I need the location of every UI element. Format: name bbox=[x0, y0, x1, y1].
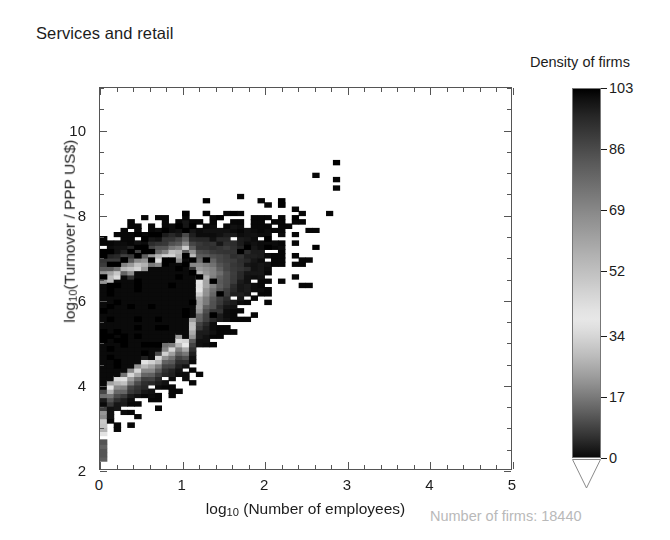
x-axis-minor-tick bbox=[331, 88, 332, 92]
x-axis-minor-tick bbox=[381, 88, 382, 92]
y-axis-minor-tick bbox=[507, 428, 511, 429]
x-axis-minor-tick bbox=[199, 88, 200, 92]
y-axis-tick bbox=[504, 301, 511, 302]
y-axis-title: log10(Turnover / PPP US$) bbox=[61, 31, 79, 431]
x-axis-minor-tick bbox=[133, 88, 134, 92]
y-tick-label: 2 bbox=[78, 462, 86, 479]
x-axis-minor-tick bbox=[133, 465, 134, 469]
x-axis-minor-tick bbox=[397, 465, 398, 469]
y-axis-tick bbox=[504, 216, 511, 217]
colorbar-tick-label: 34 bbox=[609, 328, 625, 344]
y-axis-minor-tick bbox=[100, 258, 104, 259]
x-axis-minor-tick bbox=[216, 465, 217, 469]
x-axis-title-subscript: 10 bbox=[227, 506, 239, 518]
x-axis-tick bbox=[513, 462, 514, 469]
x-axis-minor-tick bbox=[199, 465, 200, 469]
y-axis-minor-tick bbox=[507, 407, 511, 408]
x-axis-minor-tick bbox=[117, 88, 118, 92]
y-axis-minor-tick bbox=[507, 258, 511, 259]
x-tick-label: 1 bbox=[177, 476, 185, 493]
x-axis-minor-tick bbox=[117, 465, 118, 469]
x-axis-minor-tick bbox=[150, 465, 151, 469]
x-axis-minor-tick bbox=[463, 88, 464, 92]
y-axis-minor-tick bbox=[100, 152, 104, 153]
y-axis-minor-tick bbox=[100, 280, 104, 281]
x-axis-title-suffix: (Number of employees) bbox=[239, 500, 405, 517]
y-axis-minor-tick bbox=[507, 365, 511, 366]
x-axis-minor-tick bbox=[364, 88, 365, 92]
x-axis-minor-tick bbox=[166, 88, 167, 92]
y-axis-title-subscript: 10 bbox=[67, 290, 79, 302]
y-axis-tick bbox=[100, 216, 107, 217]
x-tick-label: 5 bbox=[508, 476, 516, 493]
x-axis-minor-tick bbox=[150, 88, 151, 92]
x-axis-tick bbox=[513, 88, 514, 95]
x-axis-minor-tick bbox=[298, 465, 299, 469]
colorbar-tick bbox=[601, 336, 607, 337]
x-axis-minor-tick bbox=[331, 465, 332, 469]
y-axis-minor-tick bbox=[507, 152, 511, 153]
y-axis-minor-tick bbox=[100, 450, 104, 451]
x-axis-title: log10 (Number of employees) bbox=[99, 500, 512, 518]
y-axis-minor-tick bbox=[100, 428, 104, 429]
colorbar-tick-label: 52 bbox=[609, 263, 625, 279]
x-axis-tick bbox=[100, 462, 101, 469]
colorbar-tick bbox=[601, 271, 607, 272]
colorbar-tick bbox=[601, 88, 607, 89]
x-axis-minor-tick bbox=[216, 88, 217, 92]
x-axis-tick bbox=[100, 88, 101, 95]
colorbar-tick-label: 0 bbox=[609, 450, 617, 466]
plot-area: Number of firms: 18440 bbox=[99, 87, 512, 470]
x-axis-title-prefix: log bbox=[206, 500, 227, 517]
y-axis-minor-tick bbox=[100, 173, 104, 174]
y-axis-minor-tick bbox=[507, 280, 511, 281]
x-axis-minor-tick bbox=[447, 465, 448, 469]
x-axis-minor-tick bbox=[397, 88, 398, 92]
colorbar-tick-label: 17 bbox=[609, 389, 625, 405]
x-axis-minor-tick bbox=[480, 88, 481, 92]
x-tick-label: 3 bbox=[343, 476, 351, 493]
colorbar-tick-label: 103 bbox=[609, 80, 633, 96]
x-axis-minor-tick bbox=[249, 465, 250, 469]
y-axis-minor-tick bbox=[100, 407, 104, 408]
y-axis-tick bbox=[504, 386, 511, 387]
x-tick-label: 4 bbox=[425, 476, 433, 493]
y-axis-minor-tick bbox=[100, 343, 104, 344]
x-axis-minor-tick bbox=[447, 88, 448, 92]
colorbar bbox=[572, 88, 601, 458]
y-axis-minor-tick bbox=[507, 322, 511, 323]
y-axis-tick bbox=[100, 471, 107, 472]
y-axis-tick bbox=[100, 131, 107, 132]
y-axis-title-prefix: log bbox=[61, 302, 78, 323]
density-heatmap-canvas bbox=[100, 88, 511, 469]
x-axis-minor-tick bbox=[298, 88, 299, 92]
x-axis-tick bbox=[430, 462, 431, 469]
colorbar-tick bbox=[601, 458, 607, 459]
x-axis-minor-tick bbox=[496, 465, 497, 469]
y-axis-minor-tick bbox=[507, 173, 511, 174]
colorbar-tick bbox=[601, 149, 607, 150]
y-axis-minor-tick bbox=[100, 194, 104, 195]
y-axis-minor-tick bbox=[100, 88, 104, 89]
x-axis-tick bbox=[265, 462, 266, 469]
colorbar-under-triangle-icon bbox=[572, 459, 601, 489]
x-axis-minor-tick bbox=[364, 465, 365, 469]
y-axis-minor-tick bbox=[100, 322, 104, 323]
y-axis-minor-tick bbox=[507, 194, 511, 195]
x-axis-minor-tick bbox=[496, 88, 497, 92]
x-axis-minor-tick bbox=[249, 88, 250, 92]
x-axis-tick bbox=[183, 88, 184, 95]
x-axis-tick bbox=[183, 462, 184, 469]
colorbar-tick bbox=[601, 210, 607, 211]
x-tick-label: 2 bbox=[260, 476, 268, 493]
y-axis-minor-tick bbox=[100, 237, 104, 238]
x-axis-minor-tick bbox=[166, 465, 167, 469]
colorbar-tick-label: 69 bbox=[609, 202, 625, 218]
x-axis-minor-tick bbox=[414, 88, 415, 92]
page-title: Services and retail bbox=[36, 24, 174, 43]
y-axis-tick bbox=[100, 386, 107, 387]
x-tick-label: 0 bbox=[95, 476, 103, 493]
x-axis-minor-tick bbox=[315, 465, 316, 469]
x-axis-minor-tick bbox=[381, 465, 382, 469]
y-axis-tick bbox=[504, 131, 511, 132]
